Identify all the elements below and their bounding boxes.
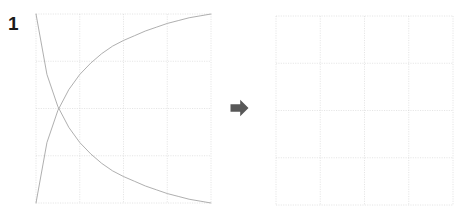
target-chart-gridlines: [276, 16, 453, 205]
panel-number-label: 1: [8, 14, 19, 33]
source-chart-gridlines: [36, 14, 211, 203]
source-chart-svg: [36, 14, 211, 203]
target-chart-svg: [276, 16, 453, 205]
target-chart: [276, 16, 453, 205]
arrow-right-icon-glyph: [230, 99, 249, 117]
source-chart: [36, 14, 211, 203]
arrow-right-shape: [231, 100, 249, 116]
figure-canvas: 1: [0, 0, 465, 216]
arrow-right-icon: [230, 99, 249, 117]
